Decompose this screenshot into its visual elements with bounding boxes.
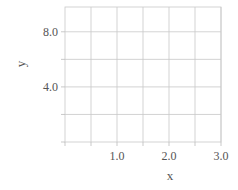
y-tick-label: 8.0 <box>43 25 58 39</box>
y-axis-label: y <box>13 60 28 67</box>
y-tick-label: 4.0 <box>43 80 58 94</box>
chart: 1.02.03.04.08.0 x y <box>0 0 238 190</box>
x-tick-label: 1.0 <box>110 149 125 163</box>
ticks <box>61 32 221 146</box>
grid <box>65 7 221 142</box>
x-axis-label: x <box>167 168 174 183</box>
x-tick-label: 3.0 <box>214 149 229 163</box>
x-tick-label: 2.0 <box>162 149 177 163</box>
